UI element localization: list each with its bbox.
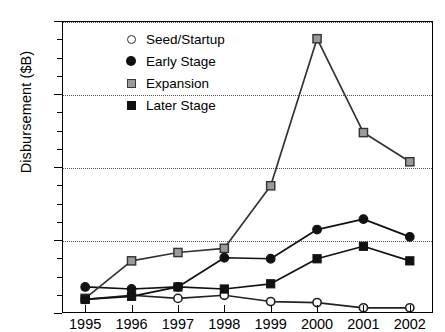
x-axis-tick-mark <box>85 305 86 313</box>
y-axis-minor-tick <box>57 185 62 186</box>
data-point-marker <box>267 182 275 190</box>
x-axis-tick-mark <box>363 305 364 313</box>
data-point-marker <box>81 283 90 292</box>
x-axis-tick-mark <box>317 305 318 313</box>
data-point-marker <box>313 225 322 234</box>
x-axis-tick-label: 2002 <box>382 316 438 332</box>
data-point-marker <box>81 295 89 303</box>
data-point-marker <box>313 35 321 43</box>
y-axis-title: Disbursement ($B) <box>18 32 34 192</box>
data-point-marker <box>267 280 275 288</box>
data-point-marker <box>220 244 228 252</box>
y-axis-tick-mark <box>54 21 62 22</box>
y-axis-minor-tick <box>57 222 62 223</box>
legend-marker-icon <box>120 35 142 44</box>
data-point-marker <box>406 257 414 265</box>
data-point-marker <box>266 254 275 263</box>
marker-filled-circle-icon <box>126 56 136 66</box>
data-series <box>81 215 414 293</box>
data-point-marker <box>127 257 135 265</box>
data-point-marker <box>406 158 414 166</box>
legend-item: Expansion <box>120 72 225 94</box>
data-series <box>81 242 414 303</box>
y-axis-minor-tick <box>57 76 62 77</box>
legend-marker-icon <box>120 101 142 110</box>
data-point-marker <box>359 128 367 136</box>
y-axis-minor-tick <box>57 149 62 150</box>
y-axis-tick-mark <box>54 240 62 241</box>
x-axis-tick-mark <box>132 305 133 313</box>
y-axis-minor-tick <box>57 204 62 205</box>
y-axis-minor-tick <box>57 131 62 132</box>
y-axis-minor-tick <box>57 277 62 278</box>
data-point-marker <box>359 215 368 224</box>
y-axis-minor-tick <box>57 39 62 40</box>
y-axis-tick-mark <box>54 313 62 314</box>
x-axis-tick-mark <box>224 305 225 313</box>
data-point-marker <box>174 283 182 291</box>
legend-item-label: Expansion <box>142 76 209 91</box>
data-point-marker <box>220 285 228 293</box>
x-axis-tick-mark <box>178 305 179 313</box>
series-layer <box>62 21 433 313</box>
data-point-marker <box>127 292 135 300</box>
legend: Seed/StartupEarly StageExpansionLater St… <box>120 28 225 116</box>
legend-item-label: Seed/Startup <box>142 32 225 47</box>
data-point-marker <box>406 233 415 242</box>
y-axis-tick-mark <box>54 94 62 95</box>
y-axis-tick-mark <box>54 167 62 168</box>
legend-item-label: Early Stage <box>142 54 216 69</box>
marker-gray-square-icon <box>127 79 136 88</box>
x-axis-tick-mark <box>410 305 411 313</box>
data-point-marker <box>220 253 229 262</box>
data-point-marker <box>174 294 182 302</box>
legend-item: Later Stage <box>120 94 225 116</box>
marker-black-square-icon <box>127 101 136 110</box>
legend-marker-icon <box>120 56 142 66</box>
y-axis-minor-tick <box>57 295 62 296</box>
y-axis-minor-tick <box>57 58 62 59</box>
legend-marker-icon <box>120 79 142 88</box>
x-axis-tick-mark <box>271 305 272 313</box>
series-line <box>85 219 410 289</box>
y-axis-minor-tick <box>57 258 62 259</box>
marker-open-circle-icon <box>127 35 136 44</box>
data-point-marker <box>359 242 367 250</box>
legend-item: Seed/Startup <box>120 28 225 50</box>
legend-item-label: Later Stage <box>142 98 216 113</box>
data-point-marker <box>313 255 321 263</box>
y-axis-minor-tick <box>57 112 62 113</box>
data-point-marker <box>174 248 182 256</box>
legend-item: Early Stage <box>120 50 225 72</box>
